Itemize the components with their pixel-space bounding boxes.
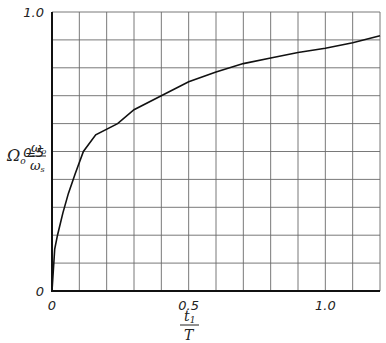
x-axis-label: t1 T bbox=[180, 308, 199, 343]
axes bbox=[51, 12, 380, 292]
svg-text:T: T bbox=[184, 327, 195, 343]
tick-labels: 00.51.000.51.0 bbox=[23, 5, 335, 313]
x-tick-label: 0 bbox=[48, 298, 56, 313]
chart: 00.51.000.51.0 Ωo = ωo ωs t1 T bbox=[0, 0, 386, 343]
y-tick-label: 1.0 bbox=[23, 5, 44, 20]
grid-lines bbox=[52, 12, 380, 291]
svg-text:ωs: ωs bbox=[30, 158, 45, 174]
svg-text:ωo: ωo bbox=[31, 140, 47, 156]
x-tick-label: 1.0 bbox=[315, 298, 336, 313]
y-tick-label: 0 bbox=[36, 284, 44, 299]
